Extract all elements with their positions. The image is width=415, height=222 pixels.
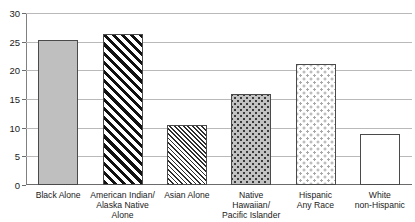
y-tick-mark (22, 128, 26, 129)
bar-asian-alone (167, 125, 207, 185)
x-label-line: non-Hispanic (348, 200, 412, 210)
x-label-line: Alaska Native (90, 200, 154, 210)
x-label-white-non-hispanic: Whitenon-Hispanic (348, 190, 412, 210)
x-label-black-alone: Black Alone (26, 190, 90, 200)
bar-white-non-hispanic (360, 134, 400, 185)
gridline (26, 99, 412, 100)
y-tick-label: 10 (9, 122, 20, 133)
y-tick-label: 5 (15, 151, 20, 162)
bar-chart: 302520151050 Black AloneAmerican Indian/… (0, 0, 415, 222)
gridline (26, 13, 412, 14)
x-label-line: Alone (90, 210, 154, 220)
plot-area: 302520151050 (26, 13, 412, 185)
y-tick-mark (22, 13, 26, 14)
x-axis-labels: Black AloneAmerican Indian/Alaska Native… (26, 190, 412, 222)
x-label-line: Pacific Islander (219, 210, 283, 220)
x-label-line: Hispanic (283, 190, 347, 200)
y-tick-label: 20 (9, 65, 20, 76)
x-label-line: Asian Alone (155, 190, 219, 200)
x-label-line: White (348, 190, 412, 200)
gridline (26, 42, 412, 43)
gridline (26, 156, 412, 157)
y-tick-label: 0 (15, 180, 20, 191)
bar-hispanic-any-race (296, 64, 336, 185)
y-tick-label: 30 (9, 8, 20, 19)
x-label-line: Any Race (283, 200, 347, 210)
y-tick-mark (22, 99, 26, 100)
y-tick-mark (22, 185, 26, 186)
gridline (26, 128, 412, 129)
y-tick-mark (22, 42, 26, 43)
bar-black-alone (38, 40, 78, 185)
x-label-line: Black Alone (26, 190, 90, 200)
x-label-asian-alone: Asian Alone (155, 190, 219, 200)
chart-title (0, 0, 415, 2)
gridline (26, 70, 412, 71)
x-label-native-hawaiian-pacific-islander: NativeHawaiian/Pacific Islander (219, 190, 283, 221)
x-label-hispanic-any-race: HispanicAny Race (283, 190, 347, 210)
x-label-line: Native (219, 190, 283, 200)
bar-native-hawaiian-pacific-islander (231, 94, 271, 185)
y-tick-mark (22, 156, 26, 157)
y-tick-label: 15 (9, 94, 20, 105)
y-tick-mark (22, 70, 26, 71)
x-label-line: Hawaiian/ (219, 200, 283, 210)
x-label-american-indian-alaska-native-alone: American Indian/Alaska NativeAlone (90, 190, 154, 221)
y-tick-label: 25 (9, 36, 20, 47)
bar-american-indian-alaska-native-alone (103, 34, 143, 185)
x-label-line: American Indian/ (90, 190, 154, 200)
